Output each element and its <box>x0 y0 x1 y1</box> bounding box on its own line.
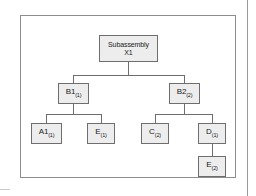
node-subassembly-x1[interactable]: SubassemblyX1 <box>99 35 158 62</box>
connector-b2-stem <box>184 104 185 114</box>
figure-frame: SubassemblyX1 B1(1) B2(2) A1(1) E(1) C(2… <box>20 15 236 178</box>
connector-d1-to-e2 <box>212 144 213 156</box>
tree-diagram-canvas: SubassemblyX1 B1(1) B2(2) A1(1) E(1) C(2… <box>21 16 237 179</box>
connector-b1-stem <box>73 104 74 114</box>
connector-to-e1 <box>101 114 102 123</box>
connector-root-bus <box>73 75 184 76</box>
connector-to-c2 <box>155 114 156 123</box>
node-b1[interactable]: B1(1) <box>58 83 89 104</box>
connector-b2-bus <box>155 114 212 115</box>
node-b2[interactable]: B2(2) <box>169 83 200 104</box>
node-e2-label: E(2) <box>206 161 217 172</box>
connector-to-b1 <box>73 75 74 83</box>
page-edge-rule <box>247 0 248 196</box>
connector-b1-bus <box>46 114 101 115</box>
node-c2-label: C(2) <box>149 128 161 139</box>
node-a1-label: A1(1) <box>39 128 55 139</box>
connector-to-a1 <box>46 114 47 123</box>
node-e2[interactable]: E(2) <box>198 156 226 177</box>
node-c2[interactable]: C(2) <box>141 123 169 144</box>
connector-to-d1 <box>212 114 213 123</box>
node-d1-label: D(1) <box>206 128 218 139</box>
node-e1[interactable]: E(1) <box>87 123 115 144</box>
node-b2-label: B2(2) <box>177 88 193 99</box>
node-subassembly-x1-label: SubassemblyX1 <box>108 41 149 56</box>
node-e1-label: E(1) <box>95 128 106 139</box>
node-b1-label: B1(1) <box>66 88 82 99</box>
connector-to-b2 <box>184 75 185 83</box>
connector-root-stem <box>128 62 129 75</box>
node-d1[interactable]: D(1) <box>198 123 226 144</box>
node-a1[interactable]: A1(1) <box>31 123 62 144</box>
page-edge-bottom-rule <box>0 189 10 190</box>
